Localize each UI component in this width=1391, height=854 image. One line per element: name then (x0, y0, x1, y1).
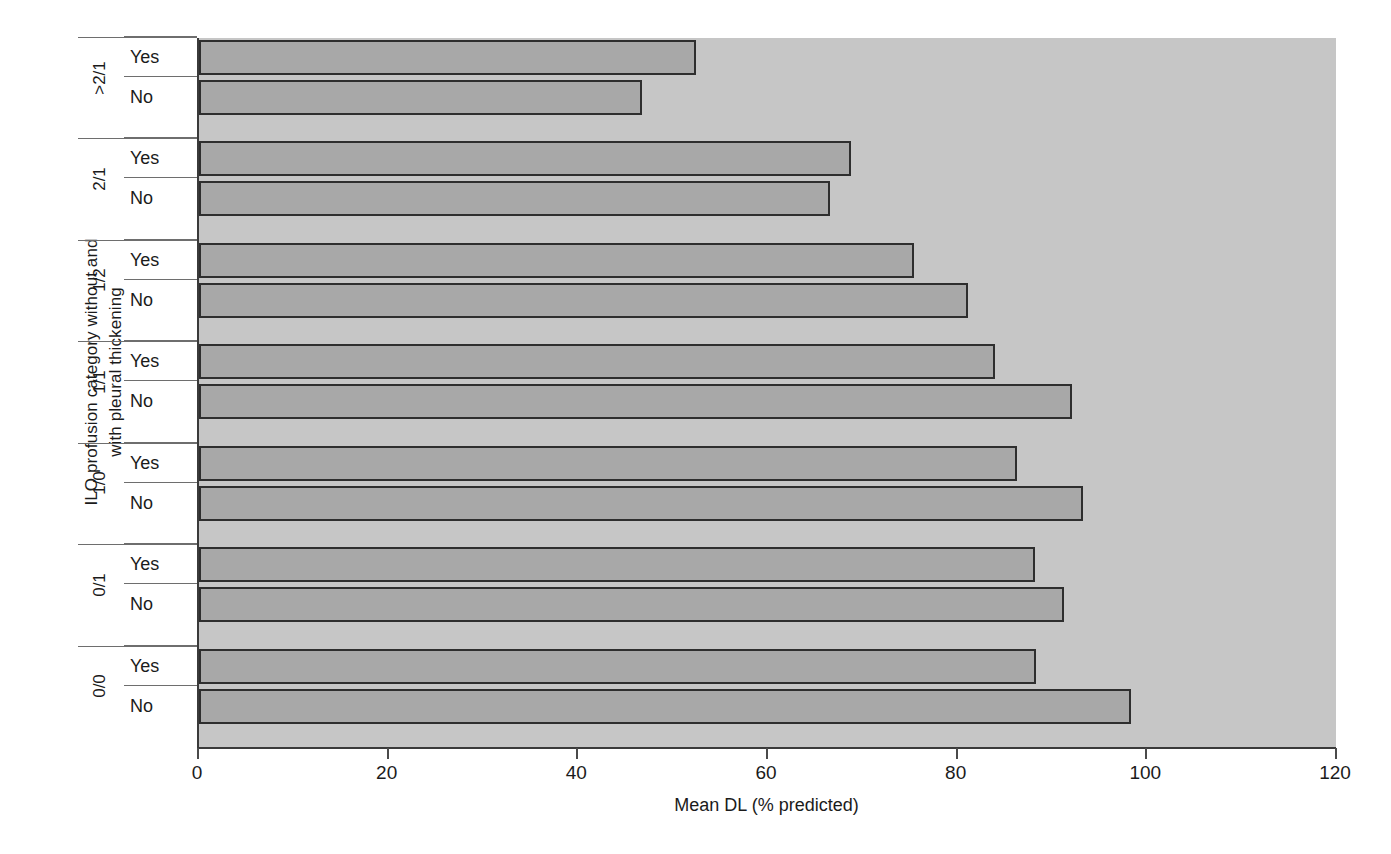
bar (199, 283, 968, 318)
category-label-text: 1/1 (90, 370, 110, 394)
subcategory-label: Yes (124, 344, 196, 379)
category-tick-major (78, 240, 197, 241)
category-tick-major (78, 544, 197, 545)
plot-area (197, 38, 1336, 748)
x-axis-tick-label: 20 (347, 762, 427, 784)
x-axis-tick (197, 748, 199, 759)
subcategory-label: Yes (124, 40, 196, 75)
category-tick-major (78, 646, 197, 647)
category-label-text: 0/1 (90, 573, 110, 597)
x-axis-title: Mean DL (% predicted) (197, 795, 1336, 816)
bar (199, 446, 1017, 481)
subcategory-label: No (124, 486, 196, 521)
x-axis-tick-label: 40 (536, 762, 616, 784)
category-tick-minor (124, 583, 197, 584)
subcategory-label: No (124, 80, 196, 115)
bar (199, 243, 914, 278)
x-axis-tick-label: 60 (726, 762, 806, 784)
bar (199, 547, 1035, 582)
category-label-text: 1/2 (90, 269, 110, 293)
category-label: 1/0 (78, 446, 122, 521)
category-tick-minor (124, 685, 197, 686)
category-tick-minor (124, 279, 197, 280)
x-axis-tick (387, 748, 389, 759)
subcategory-label: No (124, 384, 196, 419)
category-label-text: 2/1 (90, 167, 110, 191)
category-label-text: >2/1 (90, 61, 110, 95)
subcategory-label: Yes (124, 547, 196, 582)
category-label: 0/0 (78, 649, 122, 724)
bar (199, 141, 851, 176)
subcategory-label: No (124, 587, 196, 622)
x-axis-tick (766, 748, 768, 759)
subcategory-label: No (124, 689, 196, 724)
category-label: >2/1 (78, 40, 122, 115)
category-tick-major (78, 138, 197, 139)
subcategory-label: No (124, 283, 196, 318)
bar (199, 587, 1064, 622)
bar-chart-figure: ILO profusion category without and with … (0, 0, 1391, 854)
category-label: 2/1 (78, 141, 122, 216)
subcategory-label: Yes (124, 243, 196, 278)
category-label-column: >2/12/11/21/11/00/10/0 (78, 38, 122, 748)
x-axis-tick-label: 120 (1295, 762, 1375, 784)
category-tick-minor (124, 380, 197, 381)
bar (199, 486, 1083, 521)
bar (199, 181, 830, 216)
x-axis-tick-label: 100 (1105, 762, 1185, 784)
category-label: 0/1 (78, 547, 122, 622)
category-tick-major (78, 443, 197, 444)
category-label-text: 0/0 (90, 674, 110, 698)
subcategory-label: Yes (124, 141, 196, 176)
subcategory-label: Yes (124, 649, 196, 684)
bar (199, 649, 1036, 684)
x-axis-tick-label: 0 (157, 762, 237, 784)
x-axis-tick (576, 748, 578, 759)
category-tick-major (78, 341, 197, 342)
category-tick-minor (124, 482, 197, 483)
category-label-text: 1/0 (90, 471, 110, 495)
bar (199, 344, 995, 379)
subcategory-label-column: YesNoYesNoYesNoYesNoYesNoYesNoYesNo (124, 38, 196, 748)
bar (199, 384, 1072, 419)
category-label: 1/1 (78, 344, 122, 419)
bar (199, 80, 642, 115)
category-label: 1/2 (78, 243, 122, 318)
subcategory-label: Yes (124, 446, 196, 481)
category-tick-minor (124, 76, 197, 77)
x-axis-tick (1335, 748, 1337, 759)
x-axis-tick-label: 80 (916, 762, 996, 784)
x-axis-tick (1145, 748, 1147, 759)
category-tick-major (78, 37, 197, 38)
bar (199, 689, 1131, 724)
bar (199, 40, 696, 75)
subcategory-label: No (124, 181, 196, 216)
category-tick-minor (124, 177, 197, 178)
x-axis-tick (956, 748, 958, 759)
